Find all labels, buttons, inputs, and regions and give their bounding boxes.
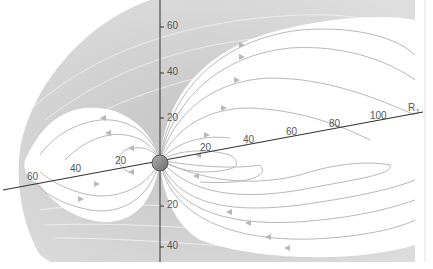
x-tick-left-20: 20 — [115, 156, 126, 166]
x-tick-left-40: 40 — [70, 164, 81, 174]
magnetosphere-diagram: 60 40 20 20 40 60 40 20 20 40 60 80 100 … — [0, 0, 433, 269]
x-tick-right-80: 80 — [329, 119, 340, 129]
y-tick-40: 40 — [167, 67, 178, 77]
y-tick-neg40: 40 — [167, 241, 178, 251]
unit-label: RJ — [408, 103, 419, 115]
x-tick-right-20: 20 — [200, 143, 211, 153]
y-tick-neg20: 20 — [167, 200, 178, 210]
x-tick-right-40: 40 — [243, 135, 254, 145]
y-tick-60: 60 — [167, 21, 178, 31]
x-tick-left-60: 60 — [27, 172, 38, 182]
planet — [152, 155, 168, 171]
x-tick-right-100: 100 — [370, 111, 387, 121]
diagram-canvas — [0, 0, 433, 269]
y-tick-20: 20 — [167, 113, 178, 123]
unit-label-subscript: J — [415, 108, 419, 115]
x-tick-right-60: 60 — [286, 127, 297, 137]
